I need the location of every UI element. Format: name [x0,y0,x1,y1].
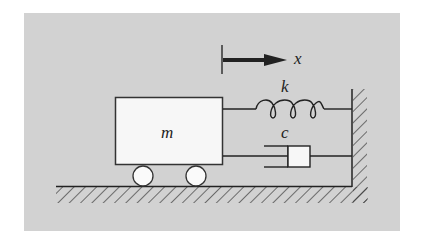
spring-label: k [281,78,289,95]
displacement-label: x [294,50,302,67]
displacement-arrow [222,45,287,74]
wheel-right [186,166,206,186]
mass-spring-damper-diagram [0,0,423,237]
wheel-left [133,166,153,186]
wall [352,89,367,203]
spring [223,100,352,118]
ground [56,187,368,204]
mass-label: m [161,124,173,141]
damper [223,146,352,167]
damper-label: c [281,124,289,141]
